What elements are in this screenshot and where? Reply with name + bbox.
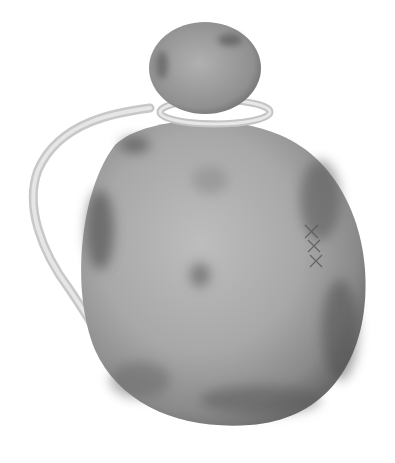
- gourd-body: [81, 121, 365, 426]
- gourd-photo: Grayscale photograph of a dried gourd ve…: [0, 0, 395, 463]
- stopper-cap: [149, 22, 261, 114]
- gourd-illustration: [0, 0, 395, 463]
